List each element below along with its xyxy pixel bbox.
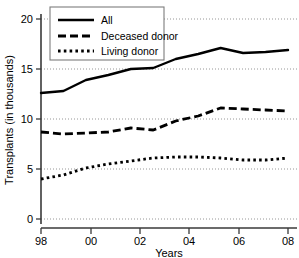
x-axis: 98 00 02 04 06 08 Years [35,228,297,258]
line-chart: 20 15 10 5 0 Transplants (in thousands) … [0,0,299,258]
y-tick-label-5: 5 [27,163,33,175]
y-tick-label-0: 0 [27,213,33,225]
y-axis: 20 15 10 5 0 Transplants (in thousands) [3,13,41,225]
legend-label-deceased-donor: Deceased donor [101,30,179,42]
x-tick-label-08: 08 [282,235,294,247]
data-series [41,48,288,179]
x-tick-label-04: 04 [183,235,195,247]
x-tick-label-06: 06 [233,235,245,247]
series-line-deceased-donor [41,108,288,134]
x-tick-label-98: 98 [35,235,47,247]
y-axis-title: Transplants (in thousands) [3,55,15,185]
legend: All Deceased donor Living donor [50,7,179,60]
x-tick-label-02: 02 [134,235,146,247]
x-tick-label-00: 00 [85,235,97,247]
legend-label-living-donor: Living donor [101,45,159,57]
y-tick-label-10: 10 [21,113,33,125]
x-axis-title: Years [155,247,183,258]
series-line-living-donor [41,157,288,179]
y-tick-label-20: 20 [21,13,33,25]
y-tick-label-15: 15 [21,63,33,75]
chart-figure: 20 15 10 5 0 Transplants (in thousands) … [0,0,299,258]
legend-label-all: All [101,14,113,26]
